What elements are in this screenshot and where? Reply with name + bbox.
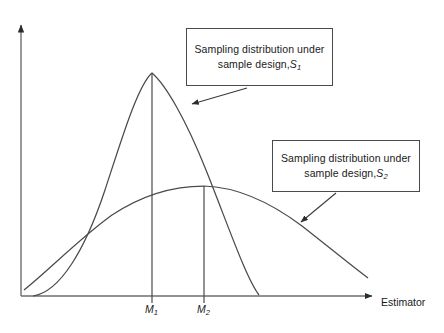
x-axis-label: Estimator bbox=[381, 296, 425, 308]
callout-s1-line1: Sampling distribution under bbox=[195, 42, 325, 57]
callout-s2-subscript: 2 bbox=[383, 172, 387, 183]
leader-arrow-s2 bbox=[301, 193, 336, 222]
tick-label-m1-text: M bbox=[145, 303, 154, 315]
tick-label-m2-text: M bbox=[197, 303, 206, 315]
callout-s2-line1: Sampling distribution under bbox=[281, 151, 411, 166]
callout-box-s1: Sampling distribution under sample desig… bbox=[186, 28, 333, 86]
tick-label-m1: M1 bbox=[145, 303, 158, 315]
curve-s2 bbox=[24, 186, 368, 290]
callout-s2-line2: sample design, S2 bbox=[304, 166, 387, 181]
callout-s1-symbol: S bbox=[290, 57, 297, 72]
curve-s1 bbox=[33, 73, 259, 296]
callout-s1-line2: sample design, S1 bbox=[218, 57, 301, 72]
sampling-distribution-figure: Sampling distribution under sample desig… bbox=[0, 0, 444, 333]
callout-s1-line2-text: sample design, bbox=[218, 57, 290, 72]
callout-box-s2: Sampling distribution under sample desig… bbox=[272, 140, 420, 192]
leader-arrow-s1 bbox=[192, 88, 247, 104]
callout-s2-line2-text: sample design, bbox=[304, 166, 376, 181]
callout-s1-subscript: 1 bbox=[297, 63, 301, 74]
tick-label-m2-subscript: 2 bbox=[206, 308, 210, 317]
tick-label-m1-subscript: 1 bbox=[154, 308, 158, 317]
tick-label-m2: M2 bbox=[197, 303, 210, 315]
